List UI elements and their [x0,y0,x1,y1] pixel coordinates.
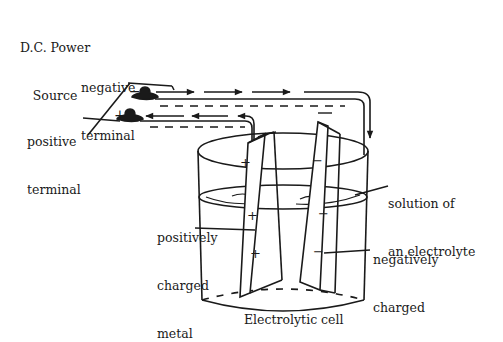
negative-terminal-line2: terminal [81,128,135,144]
negative-strip-leader [324,250,370,253]
solution-surface [199,185,367,209]
positive-strip-label: positively charged metal strip [157,198,217,342]
solution-leader [355,186,388,195]
svg-text:+: + [247,208,258,223]
positive-strip-line1: positively [157,230,217,246]
beaker [198,133,368,311]
positive-terminal-line1: positive [27,134,81,150]
charge-symbols: + + + − − − − + [114,83,329,261]
svg-text:+: + [240,155,251,170]
electrolytic-cell-caption: Electrolytic cell [244,312,344,328]
negative-strip-line2: charged [373,300,438,316]
solution-line1: solution of [388,196,475,212]
negative-terminal-label: negative terminal [81,48,135,176]
negative-strip-label: negatively charged metal strip [373,220,438,342]
svg-text:−: − [318,206,329,221]
svg-text:−: − [313,244,324,259]
positive-strip-line2: charged [157,278,217,294]
negative-strip-line1: negatively [373,252,438,268]
svg-text:−: − [312,153,323,168]
positive-strip-line3: metal [157,326,217,342]
positive-terminal-label: positive terminal [27,102,81,230]
negative-terminal-line1: negative [81,80,135,96]
svg-text:+: + [250,246,261,261]
title-line1: D.C. Power [20,40,90,56]
electrolytic-cell-diagram: + + + − − − − + D.C. Power Source negati… [0,0,503,342]
positive-terminal-line2: terminal [27,182,81,198]
